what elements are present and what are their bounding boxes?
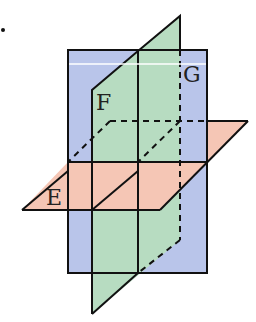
marker-dot — [1, 28, 5, 32]
label-g: G — [183, 62, 201, 87]
label-f: F — [96, 90, 111, 115]
planes-diagram: G F E — [0, 0, 256, 322]
label-e: E — [46, 185, 62, 210]
